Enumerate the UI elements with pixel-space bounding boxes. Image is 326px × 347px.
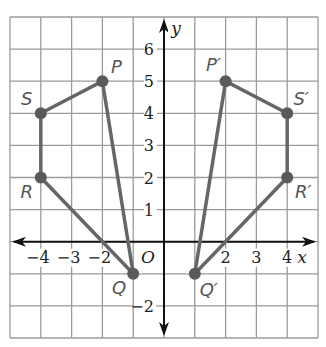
point-S-prime — [281, 107, 293, 119]
x-axis-label: x — [297, 247, 307, 267]
point-label: Q — [112, 277, 126, 298]
point-label: S — [21, 88, 32, 109]
x-tick-label: 4 — [282, 248, 292, 267]
point-R-prime — [281, 172, 293, 184]
point-label: S′ — [293, 88, 309, 109]
tick-labels: −4−3−2234123456−2Oxy — [26, 18, 309, 316]
point-Q — [127, 268, 139, 280]
x-tick-label: −2 — [88, 248, 112, 267]
x-tick-label: −4 — [26, 248, 50, 267]
y-tick-label: 4 — [144, 104, 154, 123]
point-label: P′ — [206, 54, 221, 75]
point-S — [35, 107, 47, 119]
y-tick-label: 2 — [144, 169, 154, 188]
point-P — [96, 75, 108, 87]
point-label: P — [111, 56, 122, 77]
x-tick-label: 2 — [221, 248, 231, 267]
x-tick-label: −3 — [57, 248, 81, 267]
origin-label: O — [141, 247, 155, 267]
y-tick-label: 6 — [144, 40, 154, 59]
y-tick-label: −2 — [130, 297, 154, 316]
y-tick-label: 3 — [144, 136, 154, 155]
y-axis-label: y — [170, 18, 181, 38]
point-P-prime — [220, 75, 232, 87]
point-R — [35, 172, 47, 184]
y-tick-label: 5 — [144, 72, 154, 91]
x-tick-label: 3 — [251, 248, 261, 267]
point-label: R — [21, 181, 34, 202]
point-label: Q′ — [200, 279, 218, 300]
y-tick-label: 1 — [144, 201, 154, 220]
coordinate-plane: −4−3−2234123456−2Oxy PQRSP′Q′R′S′ — [0, 0, 326, 347]
point-label: R′ — [295, 181, 312, 202]
